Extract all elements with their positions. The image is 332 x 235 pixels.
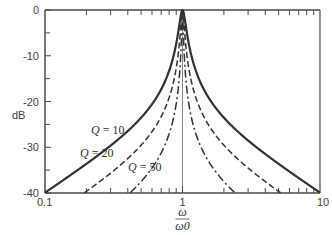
y-tick-label: -30 (23, 141, 39, 153)
x-axis-label-numerator: ω (178, 205, 186, 219)
labels: 0-10-20-30-400.1110dBωω0Q = 10Q = 20Q = … (12, 4, 329, 233)
axes (45, 10, 320, 193)
y-axis-label: dB (12, 109, 25, 121)
y-tick-label: 0 (33, 4, 39, 16)
annotation-q20: Q = 20 (80, 146, 113, 160)
y-tick-label: -20 (23, 96, 39, 108)
x-tick-label: 0.1 (37, 196, 52, 208)
y-tick-label: -10 (23, 50, 39, 62)
annotation-q10: Q = 10 (91, 123, 124, 137)
x-tick-label: 10 (317, 196, 329, 208)
bandpass-response-chart: 0-10-20-30-400.1110dBωω0Q = 10Q = 20Q = … (0, 0, 332, 235)
x-axis-label-denominator: ω0 (175, 219, 189, 233)
annotation-q50: Q = 50 (128, 160, 161, 174)
